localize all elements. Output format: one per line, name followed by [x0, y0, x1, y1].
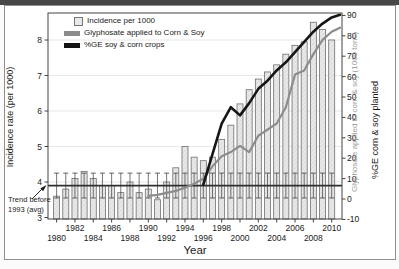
x-tick-label: 2004: [267, 233, 286, 243]
legend-item-incidence: Incidence per 1000: [64, 15, 205, 27]
x-tick-label: 1990: [139, 223, 158, 233]
x-tick-label: 1994: [176, 223, 195, 233]
x-tick-label: 2006: [286, 223, 305, 233]
x-tick-label: 1980: [47, 233, 66, 243]
incidence-bar: [154, 200, 160, 219]
left-tick-label: 3: [37, 213, 42, 223]
x-tick-label: 2002: [249, 223, 268, 233]
trend-annotation-line1: Trend before: [8, 195, 51, 204]
left-tick-label: 5: [37, 142, 42, 152]
incidence-bar: [246, 90, 252, 219]
right-axis-label-ge: %GE corn & soy planted: [370, 81, 380, 179]
legend-item-glyphosate: Glyphosate applied to Corn & Soy: [64, 27, 205, 39]
left-axis-label: Incidence rate (per 1000): [5, 67, 15, 168]
legend-label: %GE soy & corn crops: [84, 39, 164, 51]
right-tick-label: -10: [347, 214, 360, 224]
incidence-bar: [237, 104, 243, 219]
left-tick-label: 6: [37, 106, 42, 116]
x-tick-label: 2000: [231, 233, 250, 243]
right-tick-label: 90: [347, 10, 357, 20]
x-tick-label: 1984: [84, 233, 103, 243]
legend-item-ge: %GE soy & corn crops: [64, 39, 205, 51]
x-tick-label: 2010: [322, 223, 341, 233]
x-tick-label: 1996: [194, 233, 213, 243]
x-axis-label: Year: [183, 244, 206, 256]
glyphosate-line-swatch-icon: [64, 31, 80, 36]
incidence-bar-swatch-icon: [74, 17, 83, 26]
x-tick-label: 1992: [157, 233, 176, 243]
trend-annotation-line2: 1993 (avg): [8, 205, 44, 214]
chart-figure: 345678-100102030405060708090198019821984…: [0, 0, 399, 269]
right-tick-label: 0: [347, 194, 352, 204]
legend-label: Incidence per 1000: [87, 15, 155, 27]
x-tick-label: 1998: [212, 223, 231, 233]
ge-line-swatch-icon: [64, 43, 80, 48]
incidence-bar: [54, 196, 60, 219]
left-tick-label: 4: [37, 177, 42, 187]
legend-label: Glyphosate applied to Corn & Soy: [84, 27, 205, 39]
x-tick-label: 1986: [102, 223, 121, 233]
x-tick-label: 1982: [65, 223, 84, 233]
x-tick-label: 2008: [304, 233, 323, 243]
legend: Incidence per 1000 Glyphosate applied to…: [64, 15, 205, 51]
incidence-bar: [228, 125, 234, 219]
left-tick-label: 8: [37, 35, 42, 45]
right-axis-label-glyphosate: Glyphosate applied to corn & soy (1000 t…: [350, 32, 359, 192]
x-tick-label: 1988: [120, 233, 139, 243]
left-tick-label: 7: [37, 71, 42, 81]
